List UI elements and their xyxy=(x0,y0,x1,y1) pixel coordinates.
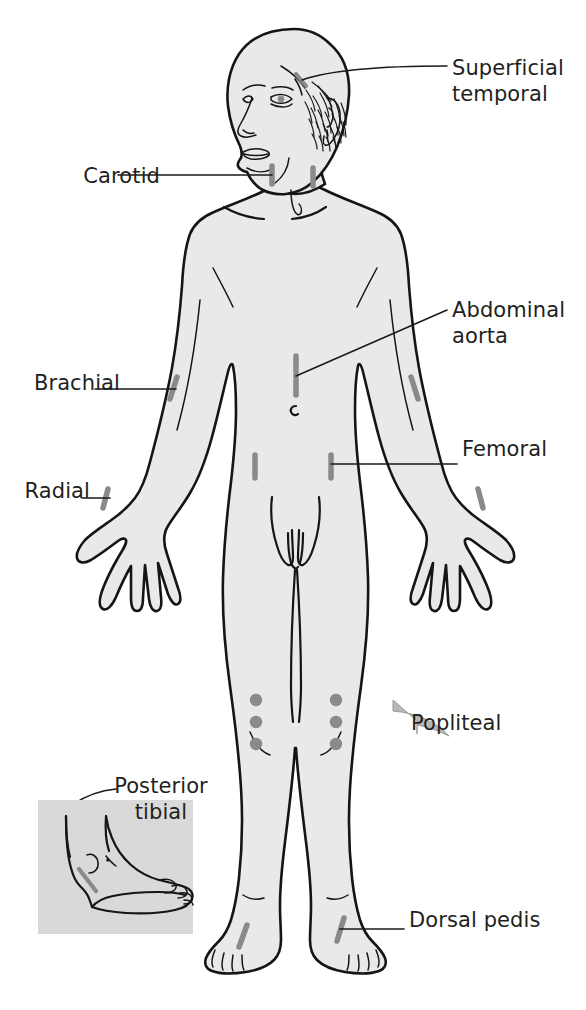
head xyxy=(227,29,349,194)
label-superficial-temporal: Superficial temporal xyxy=(452,55,582,107)
label-radial: Radial xyxy=(10,478,90,504)
label-femoral: Femoral xyxy=(462,436,582,462)
pulse-points-diagram: .skin { fill:#e9e9e9; stroke:#151515; st… xyxy=(0,0,586,1010)
label-dorsal-pedis: Dorsal pedis xyxy=(409,907,579,933)
label-popliteal: Popliteal xyxy=(411,710,531,736)
label-carotid: Carotid xyxy=(10,163,160,189)
anatomy-illustration: .skin { fill:#e9e9e9; stroke:#151515; st… xyxy=(0,0,586,1010)
marker-radial-right xyxy=(478,489,483,508)
label-posterior-tibial: Posterior tibial xyxy=(103,773,219,825)
marker-popliteal-left xyxy=(250,694,262,750)
label-brachial: Brachial xyxy=(10,370,120,396)
marker-popliteal-right xyxy=(330,694,342,750)
pupil-right xyxy=(278,96,285,103)
label-abdominal-aorta: Abdominal aorta xyxy=(452,297,582,349)
